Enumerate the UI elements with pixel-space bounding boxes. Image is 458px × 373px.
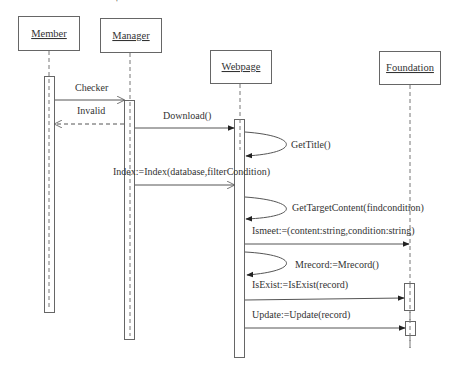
participant-label: Member xyxy=(31,28,67,39)
participant-manager: Manager xyxy=(101,19,162,53)
stray-mark: ' xyxy=(116,0,118,8)
svg-text:Download(): Download() xyxy=(163,110,211,122)
message-isexist: IsExist:=IsExist(record) xyxy=(245,279,404,300)
message-index: Index:=Index(database,filterCondition) xyxy=(113,166,270,185)
message-gettitle: GetTitle() xyxy=(245,132,331,156)
svg-text:GetTitle(): GetTitle() xyxy=(291,139,331,151)
participant-label: Manager xyxy=(112,30,150,41)
activation-webpage xyxy=(235,120,245,358)
svg-text:GetTargetContent(findcondition: GetTargetContent(findcondition) xyxy=(292,202,424,214)
message-invalid: Invalid xyxy=(55,105,124,124)
participant-member: Member xyxy=(19,17,80,51)
svg-text:Mrecord:=Mrecord(): Mrecord:=Mrecord() xyxy=(295,259,379,271)
participant-foundation: Foundation xyxy=(380,52,441,85)
participant-webpage: Webpage xyxy=(211,51,272,84)
svg-text:Ismeet:=(content:string,condit: Ismeet:=(content:string,condition:string… xyxy=(252,225,415,237)
svg-text:Update:=Update(record): Update:=Update(record) xyxy=(252,309,350,321)
activation-manager xyxy=(125,101,135,340)
message-update: Update:=Update(record) xyxy=(245,309,405,328)
participant-label: Webpage xyxy=(222,61,261,72)
sequence-diagram: ' Member Manager Webpage Foundation Ch xyxy=(0,0,458,373)
message-mrecord: Mrecord:=Mrecord() xyxy=(245,252,379,275)
svg-text:IsExist:=IsExist(record): IsExist:=IsExist(record) xyxy=(252,279,348,291)
participant-label: Foundation xyxy=(386,62,435,73)
message-gettargetcontent: GetTargetContent(findcondition) xyxy=(245,197,424,219)
svg-text:Checker: Checker xyxy=(75,82,109,93)
message-ismeet: Ismeet:=(content:string,condition:string… xyxy=(245,225,415,244)
svg-text:Index:=Index(database,filterCo: Index:=Index(database,filterCondition) xyxy=(113,166,270,178)
svg-text:Invalid: Invalid xyxy=(77,105,105,116)
message-checker: Checker xyxy=(55,82,124,100)
message-download: Download() xyxy=(135,110,234,128)
